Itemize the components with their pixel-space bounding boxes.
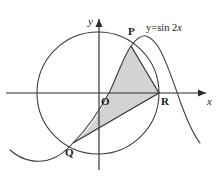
point-label-p: P: [128, 26, 135, 37]
curve-equation-label: y=sin 2x: [146, 23, 182, 34]
curve-equation-variable: x: [177, 22, 182, 33]
x-axis-label: x: [207, 96, 212, 107]
point-label-r: R: [161, 96, 169, 107]
point-label-o: O: [101, 96, 110, 107]
point-label-q: Q: [65, 147, 74, 158]
curve-equation-lhs: y=sin 2: [146, 22, 177, 33]
x-axis-arrow-icon: [198, 90, 206, 97]
math-figure: O P R Q y x y=sin 2x: [0, 0, 224, 178]
figure-canvas: [0, 0, 224, 178]
y-axis-label: y: [88, 16, 93, 27]
y-axis-arrow-icon: [96, 19, 103, 27]
